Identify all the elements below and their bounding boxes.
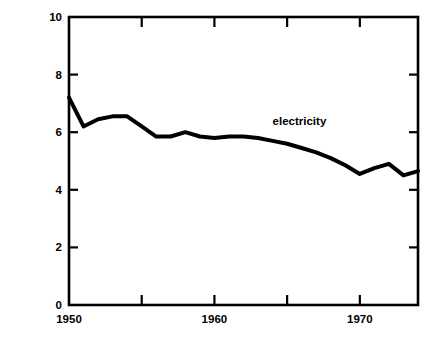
plot-border	[69, 17, 418, 305]
y-axis-title: 1970 DOLLARS PER MILLION BTU	[8, 0, 44, 44]
plot-area	[0, 0, 432, 344]
y-tick-label: 0	[40, 299, 62, 311]
axis-ticks	[69, 17, 418, 305]
x-tick-label: 1950	[56, 313, 82, 325]
y-tick-label: 2	[40, 241, 62, 253]
x-tick-label: 1960	[202, 313, 228, 325]
chart-figure: 1970 DOLLARS PER MILLION BTU 0246810 195…	[0, 0, 432, 344]
y-tick-label: 4	[40, 184, 62, 196]
axis-frame	[69, 17, 418, 305]
series-annotation-label: electricity	[273, 115, 327, 127]
data-line-electricity	[69, 98, 418, 176]
x-tick-label: 1970	[347, 313, 373, 325]
y-tick-label: 6	[40, 126, 62, 138]
data-series-group	[69, 98, 418, 176]
y-tick-label: 10	[40, 11, 62, 23]
y-tick-label: 8	[40, 69, 62, 81]
